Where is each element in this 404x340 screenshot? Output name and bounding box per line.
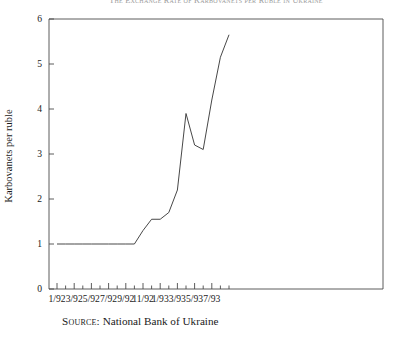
source-text: National Bank of Ukraine <box>103 315 219 327</box>
y-tick-label: 4 <box>20 104 42 114</box>
plot-frame <box>49 19 383 289</box>
y-tick-label: 6 <box>20 14 42 24</box>
y-axis-ticks <box>49 19 54 289</box>
source-label: Source: <box>62 315 100 327</box>
y-tick-label: 3 <box>20 149 42 159</box>
x-tick-label: 7/93 <box>192 294 232 304</box>
axis-frame <box>49 19 383 289</box>
source-note: Source: National Bank of Ukraine <box>62 314 219 328</box>
chart-figure: The Exchange Rate of Karbovanets per Rub… <box>0 0 404 340</box>
x-axis-ticks <box>57 283 229 289</box>
data-series-line <box>57 35 229 244</box>
y-tick-label: 1 <box>20 239 42 249</box>
y-tick-label: 5 <box>20 59 42 69</box>
plot-area <box>0 0 404 340</box>
y-tick-label: 0 <box>20 284 42 294</box>
y-tick-label: 2 <box>20 194 42 204</box>
